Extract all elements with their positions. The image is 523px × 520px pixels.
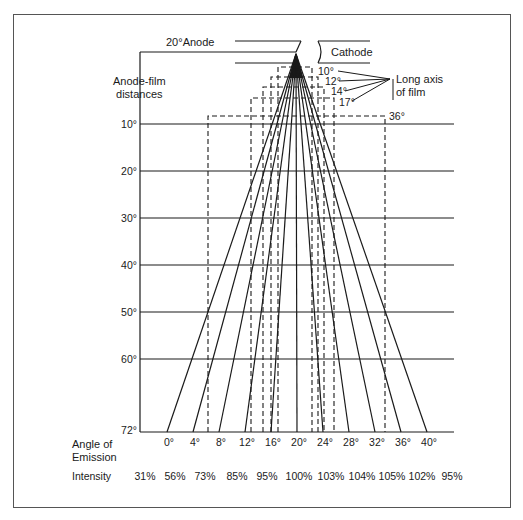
anode-film-label-line2: distances — [113, 88, 166, 101]
angle-12: 12° — [239, 436, 255, 448]
angle-32: 32° — [369, 436, 385, 448]
long-axis-label-line1: Long axis — [396, 73, 443, 86]
angle-28: 28° — [343, 436, 359, 448]
film-size-17: 17° — [339, 96, 355, 109]
angle-24: 24° — [317, 436, 333, 448]
anode-label: 20°Anode — [166, 36, 214, 49]
intensity-20: 100% — [286, 470, 313, 482]
angle-16: 16° — [265, 436, 281, 448]
intensity-0: 31% — [134, 470, 155, 482]
intensity-8: 73% — [194, 470, 215, 482]
angle-20: 20° — [291, 436, 307, 448]
distance-72: 72° — [97, 424, 137, 436]
angle-4: 4° — [190, 436, 200, 448]
angle-of-emission-line2: Emission — [72, 451, 117, 464]
long-axis-label: Long axis of film — [396, 73, 443, 99]
cathode-label: Cathode — [331, 46, 373, 59]
intensity-32: 105% — [379, 470, 406, 482]
intensity-12: 85% — [226, 470, 247, 482]
distance-10: 10° — [97, 118, 137, 130]
distance-50: 50° — [97, 306, 137, 318]
intensity-40: 95% — [441, 470, 462, 482]
film-size-36: 36° — [389, 110, 405, 123]
angle-36: 36° — [395, 436, 411, 448]
angle-40: 40° — [421, 436, 437, 448]
intensity-4: 56% — [164, 470, 185, 482]
emission-rays — [167, 54, 427, 432]
angle-0: 0° — [164, 436, 174, 448]
anode-film-label-line1: Anode-film — [113, 75, 166, 88]
angle-of-emission-line1: Angle of — [72, 438, 117, 451]
anode-film-label: Anode-film distances — [113, 75, 166, 101]
intensity-28: 104% — [349, 470, 376, 482]
distance-60: 60° — [97, 353, 137, 365]
angle-8: 8° — [216, 436, 226, 448]
long-axis-label-line2: of film — [396, 86, 443, 99]
intensity-24: 103% — [318, 470, 345, 482]
intensity-16: 95% — [256, 470, 277, 482]
distance-40: 40° — [97, 259, 137, 271]
intensity-36: 102% — [409, 470, 436, 482]
distance-20: 20° — [97, 165, 137, 177]
intensity-label: Intensity — [72, 470, 111, 483]
distance-30: 30° — [97, 212, 137, 224]
angle-of-emission-label: Angle of Emission — [72, 438, 117, 464]
